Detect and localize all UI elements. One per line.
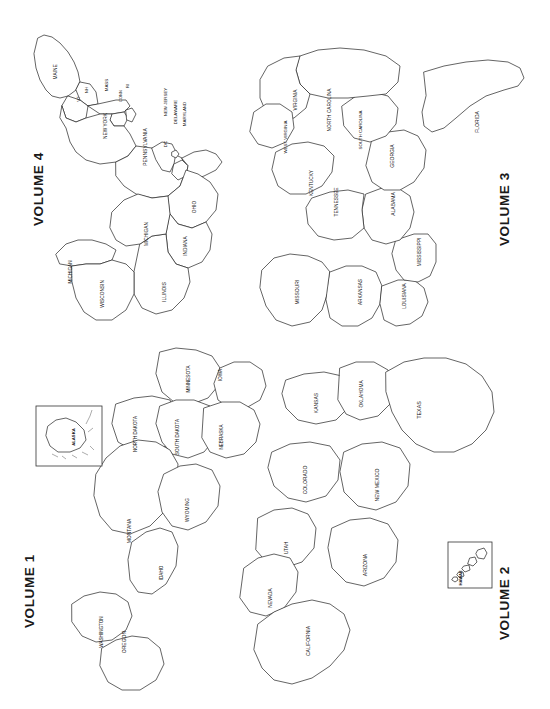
volume-4-region[interactable] (34, 35, 222, 320)
state-nebraska[interactable] (202, 402, 260, 458)
state-label-new-jersey: NEW JERSEY (163, 88, 168, 117)
state-label-north-carolina: NORTH CAROLINA (327, 88, 332, 132)
volume-4-label: VOLUME 4 (31, 152, 46, 226)
volume-2-region[interactable] (240, 358, 494, 684)
state-label-oklahoma: OKLAHOMA (359, 380, 364, 408)
state-label-montana: MONTANA (126, 518, 132, 543)
state-label-idaho: IDAHO (159, 565, 164, 580)
state-label-ohio: OHIO (192, 201, 197, 214)
state-label-vt: VT (76, 96, 81, 102)
state-mississippi[interactable] (392, 234, 436, 282)
state-oregon[interactable] (100, 636, 164, 690)
state-label-south-dakota: SOUTH DAKOTA (175, 418, 180, 455)
hawaii-inset-label: HAWAII (458, 571, 463, 586)
volume-2-label: VOLUME 2 (497, 566, 512, 640)
state-rhode-island[interactable] (126, 108, 136, 122)
state-arkansas[interactable] (326, 266, 382, 326)
state-north-carolina[interactable] (296, 48, 400, 98)
state-label-iowa: IOWA (218, 368, 223, 381)
state-label-ri: RI (125, 84, 130, 88)
state-label-texas: TEXAS (416, 401, 422, 419)
state-label-georgia: GEORGIA (389, 144, 395, 168)
map-page: WASHINGTONOREGONIDAHOMONTANAWYOMINGNORTH… (0, 0, 550, 709)
state-label-michigan: MICHIGAN (144, 221, 149, 246)
state-label-nebraska: NEBRASKA (219, 424, 224, 450)
state-label-arkansas: ARKANSAS (358, 279, 363, 305)
state-idaho[interactable] (128, 528, 178, 594)
state-label-minnesota: MINNESOTA (186, 365, 191, 393)
state-label-new-york: NEW YORK (103, 112, 108, 139)
state-label-north-dakota: NORTH DAKOTA (133, 415, 138, 452)
state-label-california: CALIFORNIA (305, 625, 311, 656)
state-label-alabama: ALABAMA (390, 192, 396, 216)
state-label-mississippi: MISSISSIPPI (417, 238, 422, 267)
state-label-washington: WASHINGTON (99, 616, 104, 647)
state-label-pennsylvania: PENNSYLVANIA (142, 128, 148, 166)
state-label-delaware: DELAWARE (173, 100, 178, 124)
state-label-louisiana: LOUISIANA (402, 282, 407, 308)
state-label-mass: MASS (104, 79, 109, 92)
state-label-indiana: INDIANA (183, 235, 188, 255)
state-label-florida: FLORIDA (474, 111, 480, 133)
state-label-utah: UTAH (284, 541, 289, 554)
state-label-new-mexico: NEW MEXICO (374, 469, 380, 502)
state-label-kansas: KANSAS (313, 392, 319, 413)
state-texas[interactable] (386, 358, 494, 452)
state-label-tennessee: TENNESSEE (334, 187, 339, 216)
state-label-virginia: VIRGINIA (293, 89, 298, 111)
state-label-west-virginia: WEST VIRGINIA (283, 120, 288, 153)
state-label-illinois: ILLINOIS (162, 282, 167, 302)
state-oklahoma[interactable] (338, 362, 394, 420)
state-kentucky[interactable] (272, 142, 334, 194)
state-label-dc: DC (163, 141, 168, 147)
state-label-missouri: MISSOURI (294, 280, 300, 305)
state-florida[interactable] (422, 60, 524, 132)
state-label-south-carolina: SOUTH CAROLINA (358, 110, 363, 149)
alaska-inset-label: ALASKA (71, 428, 76, 445)
state-label-nevada: NEVADA (268, 588, 273, 608)
state-label-nh: NH (84, 87, 89, 93)
us-map-figure: WASHINGTONOREGONIDAHOMONTANAWYOMINGNORTH… (0, 0, 550, 709)
volume-3-label: VOLUME 3 (497, 172, 512, 246)
state-label-wisconsin: WISCONSIN (100, 280, 105, 308)
state-label-kentucky: KENTUCKY (309, 169, 314, 196)
state-label-maryland: MARYLAND (182, 102, 187, 126)
state-alabama[interactable] (362, 188, 414, 244)
state-label-arizona: ARIZONA (362, 553, 368, 576)
state-label-wyoming: WYOMING (185, 498, 190, 522)
state-label-oregon: OREGON (121, 631, 127, 654)
volume-3-region[interactable] (250, 48, 524, 326)
state-label-conn: CONN (118, 90, 123, 102)
state-label-colorado: COLORADO (302, 466, 308, 495)
volume-1-label: VOLUME 1 (22, 554, 37, 628)
volume-1-region[interactable] (36, 348, 266, 690)
state-label-maine: MAINE (53, 64, 58, 79)
state-label-michigan: MICHIGAN (68, 261, 73, 284)
